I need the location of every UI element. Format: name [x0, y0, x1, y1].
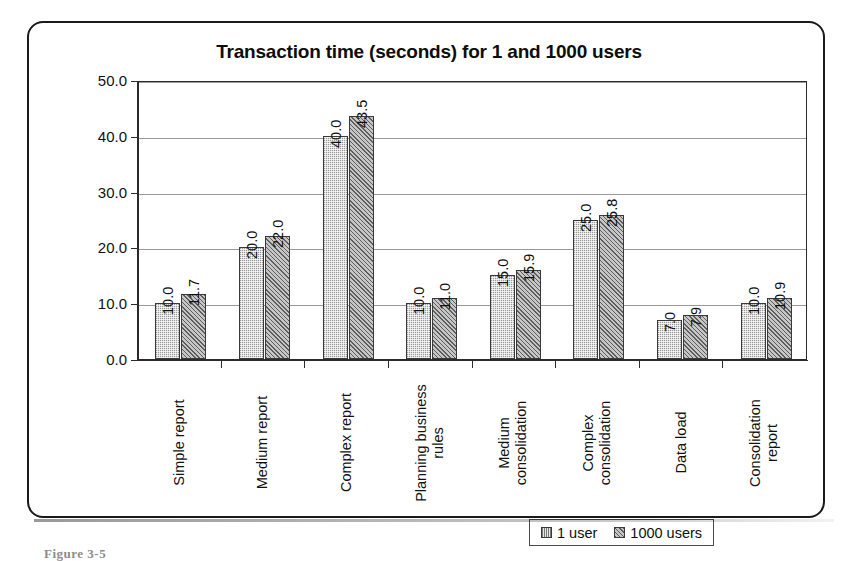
- legend-label: 1000 users: [630, 525, 702, 541]
- bar: [323, 136, 348, 359]
- category-label: Complex consolidation: [580, 368, 614, 518]
- gridline: [139, 82, 806, 83]
- bar: [490, 275, 515, 359]
- y-tick-label: 40.0: [75, 128, 127, 145]
- bar: [265, 236, 290, 359]
- y-tick-mark: [131, 81, 138, 82]
- category-label: Medium consolidation: [496, 368, 530, 518]
- bar: [599, 215, 624, 359]
- bar-value-label: 25.0: [578, 203, 594, 231]
- bar-value-label: 15.0: [495, 259, 511, 287]
- bar-value-label: 10.9: [772, 282, 788, 310]
- clipped-figure-caption: Figure 3-5: [44, 546, 344, 561]
- y-tick-mark: [131, 193, 138, 194]
- bar-value-label: 7.0: [662, 312, 678, 332]
- category-label: Data load: [672, 368, 689, 518]
- light-stipple-swatch: [541, 527, 552, 538]
- bar: [516, 270, 541, 359]
- x-tick-mark: [388, 361, 389, 368]
- chart-legend: 1 user1000 users: [529, 519, 714, 546]
- figure-frame: Transaction time (seconds) for 1 and 100…: [27, 21, 825, 518]
- bar-value-label: 7.9: [688, 307, 704, 327]
- bar-value-label: 22.0: [270, 220, 286, 248]
- legend-label: 1 user: [557, 525, 597, 541]
- dark-hatch-swatch: [614, 527, 625, 538]
- plot-area: 10.011.720.022.040.043.510.011.015.015.9…: [138, 81, 807, 360]
- bar-value-label: 10.0: [160, 287, 176, 315]
- legend-entry: 1000 users: [614, 525, 702, 541]
- bar-value-label: 40.0: [328, 120, 344, 148]
- bar-value-label: 10.0: [411, 287, 427, 315]
- gridline: [139, 138, 806, 139]
- y-tick-label: 10.0: [75, 295, 127, 312]
- category-label: Simple report: [170, 368, 187, 518]
- y-tick-mark: [131, 248, 138, 249]
- bar: [573, 220, 598, 360]
- bar-value-label: 15.9: [521, 254, 537, 282]
- y-tick-label: 0.0: [75, 351, 127, 368]
- bar-value-label: 25.8: [604, 199, 620, 227]
- bar: [349, 116, 374, 359]
- bar-value-label: 11.0: [437, 282, 453, 309]
- x-tick-mark: [722, 361, 723, 368]
- x-tick-mark: [221, 361, 222, 368]
- chart-title: Transaction time (seconds) for 1 and 100…: [89, 41, 769, 63]
- category-label: Planning business rules: [413, 368, 447, 518]
- x-tick-mark: [304, 361, 305, 368]
- bar-value-label: 10.0: [746, 287, 762, 315]
- bar-value-label: 20.0: [244, 231, 260, 259]
- y-tick-label: 20.0: [75, 239, 127, 256]
- x-axis-line: [137, 360, 808, 361]
- scan-shadow: [34, 519, 834, 522]
- bar: [239, 247, 264, 359]
- category-label: Medium report: [254, 368, 271, 518]
- category-label: Complex report: [338, 368, 355, 518]
- bar-value-label: 11.7: [186, 279, 202, 306]
- gridline: [139, 194, 806, 195]
- x-tick-mark: [472, 361, 473, 368]
- y-tick-label: 50.0: [75, 72, 127, 89]
- y-tick-mark: [131, 304, 138, 305]
- bar-value-label: 43.5: [354, 100, 370, 128]
- legend-entry: 1 user: [541, 525, 597, 541]
- x-tick-mark: [639, 361, 640, 368]
- y-axis-tick-labels: 0.010.020.030.040.050.0: [71, 81, 127, 361]
- y-tick-mark: [131, 137, 138, 138]
- x-tick-mark: [555, 361, 556, 368]
- y-tick-label: 30.0: [75, 184, 127, 201]
- category-label: Consolidation report: [747, 368, 781, 518]
- y-tick-mark: [131, 360, 138, 361]
